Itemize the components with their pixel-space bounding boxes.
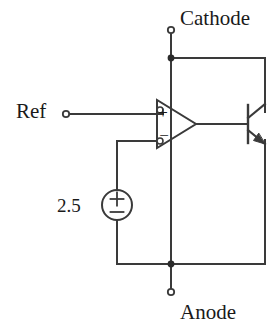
opamp-plus-symbol: + — [158, 103, 168, 122]
anode-label: Anode — [180, 302, 236, 323]
ref-terminal-node[interactable] — [63, 111, 69, 117]
anode-terminal-node[interactable] — [168, 289, 174, 295]
voltage-source-value-label: 2.5 — [57, 196, 81, 215]
circuit-diagram-canvas: + − Cathode Ref 2.5 Anode — [0, 0, 280, 335]
ref-label: Ref — [16, 101, 46, 122]
transistor-collector-lead — [248, 104, 265, 118]
schematic-svg: + − — [0, 0, 280, 335]
cathode-terminal-node[interactable] — [168, 27, 174, 33]
cathode-junction-dot — [168, 55, 175, 62]
opamp-minus-symbol: − — [159, 126, 169, 145]
cathode-label: Cathode — [180, 8, 250, 29]
anode-junction-dot — [168, 261, 175, 268]
